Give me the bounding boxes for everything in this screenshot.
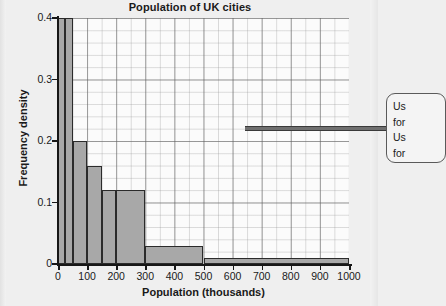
histogram-bar	[58, 18, 65, 264]
callout-leader-line	[245, 126, 388, 131]
histogram-bar	[87, 166, 102, 264]
histogram-bar	[73, 141, 88, 264]
callout-text-line: for	[393, 146, 445, 162]
y-axis-tick	[52, 79, 58, 81]
y-axis-tick	[52, 202, 58, 204]
y-axis-tick-label: 0.4	[20, 11, 52, 23]
y-axis-tick-labels: 00.10.20.30.4	[8, 0, 52, 306]
y-axis-tick-label: 0	[20, 257, 52, 269]
y-axis-tick	[52, 17, 58, 19]
histogram-bar	[65, 18, 72, 264]
histogram-bar	[116, 190, 145, 264]
chart-title: Population of UK cities	[60, 1, 320, 13]
page-right-edge	[370, 0, 378, 306]
histogram-bars	[58, 18, 349, 264]
callout-text-line: for	[393, 115, 445, 131]
callout-text-line: Us	[393, 130, 445, 146]
histogram-bar	[102, 190, 117, 264]
histogram-bar	[145, 246, 203, 264]
x-axis-title: Population (thousands)	[58, 286, 349, 298]
y-axis-title: Frequency density	[17, 68, 29, 208]
callout-box: UsforUsfor	[386, 93, 446, 163]
y-axis-tick	[52, 140, 58, 142]
page-left-edge	[0, 0, 6, 306]
callout-text-line: Us	[393, 99, 445, 115]
x-axis-tick-label: 1000	[329, 270, 369, 282]
